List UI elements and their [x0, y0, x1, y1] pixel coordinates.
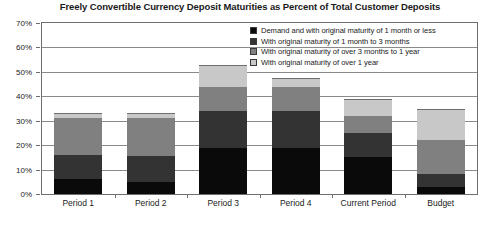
- legend-item[interactable]: With original maturity of 1 month to 3 m…: [250, 37, 436, 46]
- x-axis-tick-label: Period 2: [135, 198, 167, 208]
- bar-segment[interactable]: [344, 133, 392, 157]
- x-axis: Period 1Period 2Period 3Period 4Current …: [42, 198, 477, 214]
- y-axis-tick-mark: [36, 145, 40, 146]
- legend-swatch-icon: [250, 38, 257, 45]
- bar-stack[interactable]: [199, 65, 247, 194]
- y-axis-tick-label: 60%: [16, 43, 32, 52]
- y-axis-tick-mark: [36, 96, 40, 97]
- bar-segment[interactable]: [54, 179, 102, 194]
- y-axis-tick-label: 30%: [16, 116, 32, 125]
- bar-segment[interactable]: [199, 65, 247, 87]
- bar-segment[interactable]: [127, 156, 175, 182]
- x-axis-tick-mark: [187, 194, 188, 198]
- x-axis-tick-mark: [405, 194, 406, 198]
- y-axis-tick-mark: [36, 121, 40, 122]
- y-axis-tick-label: 20%: [16, 141, 32, 150]
- legend-swatch-icon: [250, 59, 257, 66]
- x-axis-tick-label: Current Period: [341, 198, 396, 208]
- bar-segment[interactable]: [272, 148, 320, 194]
- x-axis-tick-label: Period 3: [207, 198, 239, 208]
- x-axis-tick-label: Budget: [427, 198, 454, 208]
- legend-item-label: With original maturity of over 3 months …: [261, 47, 420, 56]
- bar-segment[interactable]: [54, 155, 102, 179]
- bar-segment[interactable]: [344, 157, 392, 194]
- y-axis-tick-mark: [36, 170, 40, 171]
- bar-segment[interactable]: [272, 78, 320, 87]
- x-axis-tick-label: Period 4: [280, 198, 312, 208]
- bar-segment[interactable]: [417, 140, 465, 174]
- y-axis-tick-label: 70%: [16, 19, 32, 28]
- x-axis-tick-mark: [260, 194, 261, 198]
- bar-stack[interactable]: [272, 78, 320, 194]
- bar-segment[interactable]: [127, 118, 175, 156]
- bar-segment[interactable]: [199, 111, 247, 148]
- bar-segment[interactable]: [127, 182, 175, 194]
- legend-item-label: With original maturity of over 1 year: [261, 58, 379, 67]
- bar-segment[interactable]: [199, 148, 247, 194]
- legend-swatch-icon: [250, 48, 257, 55]
- bar-segment[interactable]: [54, 118, 102, 155]
- bar-segment[interactable]: [199, 87, 247, 111]
- y-axis-tick-label: 0%: [20, 190, 32, 199]
- bar-stack[interactable]: [344, 99, 392, 194]
- legend-item-label: With original maturity of 1 month to 3 m…: [261, 37, 409, 46]
- bar-stack[interactable]: [417, 109, 465, 194]
- y-axis-tick-mark: [36, 194, 40, 195]
- y-axis-tick-label: 50%: [16, 67, 32, 76]
- y-axis: 0%10%20%30%40%50%60%70%: [0, 22, 36, 195]
- y-axis-tick-label: 10%: [16, 165, 32, 174]
- chart-title: Freely Convertible Currency Deposit Matu…: [0, 1, 500, 12]
- y-axis-tick-mark: [36, 23, 40, 24]
- bar-segment[interactable]: [417, 174, 465, 186]
- legend-item-label: Demand and with original maturity of 1 m…: [261, 26, 436, 35]
- bar-segment[interactable]: [417, 109, 465, 141]
- legend-swatch-icon: [250, 27, 257, 34]
- bar-segment[interactable]: [272, 87, 320, 111]
- chart-legend: Demand and with original maturity of 1 m…: [250, 26, 436, 67]
- bar-stack[interactable]: [127, 113, 175, 194]
- y-axis-tick-label: 40%: [16, 92, 32, 101]
- bar-segment[interactable]: [344, 99, 392, 116]
- bar-stack[interactable]: [54, 113, 102, 194]
- legend-item[interactable]: With original maturity of over 3 months …: [250, 47, 436, 56]
- legend-item[interactable]: Demand and with original maturity of 1 m…: [250, 26, 436, 35]
- chart-container: Freely Convertible Currency Deposit Matu…: [0, 0, 500, 235]
- y-axis-tick-mark: [36, 72, 40, 73]
- bar-segment[interactable]: [344, 116, 392, 133]
- legend-item[interactable]: With original maturity of over 1 year: [250, 58, 436, 67]
- y-axis-tick-mark: [36, 47, 40, 48]
- x-axis-tick-label: Period 1: [62, 198, 94, 208]
- bar-segment[interactable]: [272, 111, 320, 148]
- bar-segment[interactable]: [417, 187, 465, 194]
- x-axis-tick-mark: [115, 194, 116, 198]
- x-axis-tick-mark: [332, 194, 333, 198]
